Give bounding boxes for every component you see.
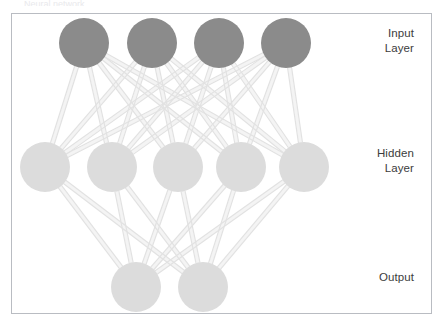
connection-edge xyxy=(231,65,288,148)
input-node-4[interactable] xyxy=(261,18,311,68)
connection-edge xyxy=(126,188,187,268)
connection-edge xyxy=(158,183,285,274)
hidden-node-1[interactable] xyxy=(20,142,70,192)
output-layer-label: Output xyxy=(352,270,414,285)
hidden-node-5[interactable] xyxy=(279,142,329,192)
hidden-node-2[interactable] xyxy=(87,142,137,192)
edges-hidden-to-output xyxy=(59,180,290,274)
hidden-node-3[interactable] xyxy=(153,142,203,192)
neural-network-figure: Neural network Input LayerHidden LayerOu… xyxy=(0,0,443,329)
output-node-1[interactable] xyxy=(111,262,161,312)
input-node-2[interactable] xyxy=(127,18,177,68)
connection-edge xyxy=(218,185,287,267)
input-node-1[interactable] xyxy=(59,18,109,68)
hidden-layer-label: Hidden Layer xyxy=(352,146,414,175)
connection-edge-fill xyxy=(290,68,301,143)
connection-edge xyxy=(62,186,123,266)
output-node-2[interactable] xyxy=(178,262,228,312)
input-layer-label: Input Layer xyxy=(352,26,414,55)
connection-edge xyxy=(51,66,75,142)
input-node-3[interactable] xyxy=(194,18,244,68)
hidden-node-4[interactable] xyxy=(216,142,266,192)
